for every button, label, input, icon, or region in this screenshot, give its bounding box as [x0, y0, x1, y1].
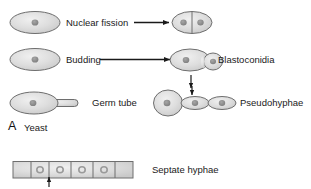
label-germ-tube: Germ tube [92, 98, 137, 108]
label-blastoconidia: Blastoconidia [218, 55, 275, 65]
fungal-morphology-figure: Nuclear fission Budding Blastoconidia Ge… [0, 0, 311, 189]
label-nuclear-fission: Nuclear fission [66, 18, 128, 28]
yeast-cell-divided [172, 12, 212, 34]
nucleus [30, 100, 37, 106]
nucleus [32, 56, 39, 62]
yeast-cell-budding [170, 49, 223, 71]
nucleus [210, 59, 216, 65]
label-septate-hyphae: Septate hyphae [152, 165, 219, 175]
nucleus [197, 20, 203, 26]
nucleus [164, 100, 171, 106]
yeast-cell-single-fission [10, 12, 60, 34]
panel-letter-a: A [8, 120, 16, 133]
panel-title-yeast: Yeast [24, 123, 47, 133]
nucleus [219, 100, 225, 106]
nucleus [180, 20, 186, 26]
pseudohyphae-chain [154, 86, 237, 116]
nucleus [32, 19, 39, 25]
yeast-cell-with-germ-tube [10, 92, 78, 114]
label-pseudohyphae: Pseudohyphae [240, 98, 303, 108]
figure-canvas [0, 0, 311, 189]
septate-hyphae-diagram [13, 162, 133, 188]
row-budding [10, 49, 223, 89]
yeast-cell-single-budding [10, 49, 60, 71]
nucleus [183, 57, 190, 63]
nucleus [192, 100, 198, 106]
label-budding: Budding [66, 55, 101, 65]
